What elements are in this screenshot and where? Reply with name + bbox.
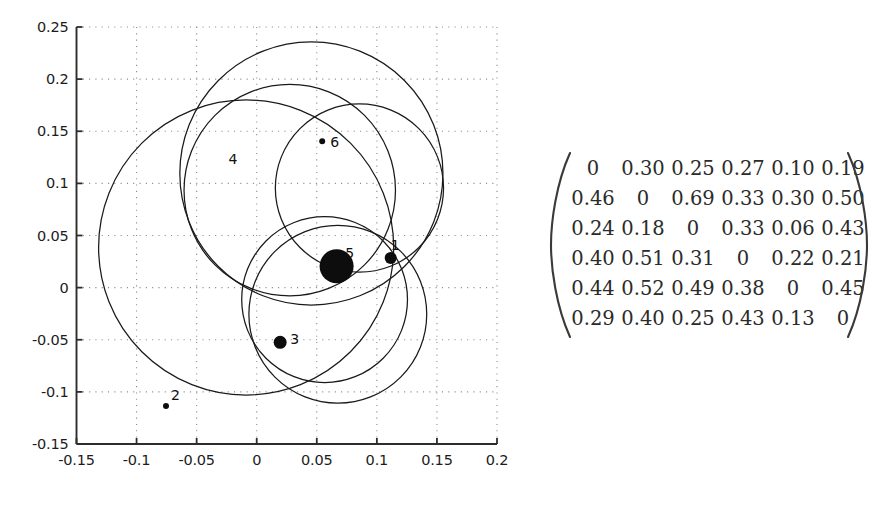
matrix-right-paren-icon (844, 150, 870, 340)
matrix-cell: 0.24 (568, 214, 618, 244)
circle-3 (180, 42, 443, 305)
matrix-cell: 0.06 (768, 214, 818, 244)
matrix-cell: 0 (768, 274, 818, 304)
matrix-cell: 0.33 (718, 214, 768, 244)
matrix-table: 00.300.250.270.100.190.4600.690.330.300.… (568, 154, 868, 334)
matrix-cell: 0.22 (768, 244, 818, 274)
matrix-cell: 0.33 (718, 184, 768, 214)
matrix-row: 0.290.400.250.430.130 (568, 304, 868, 334)
matrix-row: 0.4600.690.330.300.50 (568, 184, 868, 214)
matrix-cell: 0.49 (668, 274, 718, 304)
matrix-row: 00.300.250.270.100.19 (568, 154, 868, 184)
data-point-marker (319, 138, 325, 144)
y-axis-tick-label: 0 (3, 280, 69, 296)
matrix-cell: 0.40 (568, 244, 618, 274)
matrix-cell: 0.29 (568, 304, 618, 334)
matrix-row: 0.440.520.490.3800.45 (568, 274, 868, 304)
distance-matrix: 00.300.250.270.100.190.4600.690.330.300.… (548, 150, 868, 340)
matrix-cell: 0 (568, 154, 618, 184)
plot-data-points (163, 138, 397, 409)
y-axis-tick-label: -0.1 (3, 384, 69, 400)
matrix-cell: 0.69 (668, 184, 718, 214)
x-axis-tick-label: 0.2 (486, 452, 508, 468)
matrix-cell: 0.31 (668, 244, 718, 274)
data-point-label-6: 6 (330, 134, 339, 150)
matrix-cell: 0.52 (618, 274, 668, 304)
figure-panel: 0.250.20.150.10.050-0.05-0.1-0.15 -0.15-… (0, 0, 892, 508)
matrix-cell: 0.44 (568, 274, 618, 304)
y-axis-tick-label: -0.15 (3, 436, 69, 452)
data-point-label-1: 1 (391, 237, 400, 253)
matrix-cell: 0.38 (718, 274, 768, 304)
x-axis-tick-label: 0.05 (301, 452, 333, 468)
matrix-cell: 0.25 (668, 304, 718, 334)
matrix-cell: 0.40 (618, 304, 668, 334)
y-axis-tick-label: 0.1 (3, 175, 69, 191)
y-axis-tick-label: 0.25 (3, 19, 69, 35)
matrix-cell: 0 (618, 184, 668, 214)
y-axis-tick-label: 0.2 (3, 71, 69, 87)
matrix-cell: 0.43 (718, 304, 768, 334)
matrix-cell: 0.25 (668, 154, 718, 184)
data-point-label-2: 2 (171, 387, 180, 403)
matrix-cell: 0.30 (768, 184, 818, 214)
x-axis-tick-label: 0.1 (366, 452, 388, 468)
matrix-cell: 0.13 (768, 304, 818, 334)
data-point-label-5: 5 (345, 245, 354, 261)
x-axis-tick-label: -0.05 (178, 452, 215, 468)
data-point-marker (163, 403, 169, 409)
y-axis-tick-label: -0.05 (3, 332, 69, 348)
matrix-cell: 0 (668, 214, 718, 244)
matrix-cell: 0 (718, 244, 768, 274)
matrix-cell: 0.10 (768, 154, 818, 184)
matrix-cell: 0.27 (718, 154, 768, 184)
x-axis-tick-label: 0 (252, 452, 261, 468)
data-point-label-3: 3 (290, 331, 299, 347)
y-axis-tick-label: 0.15 (3, 123, 69, 139)
matrix-cell: 0.30 (618, 154, 668, 184)
data-point-marker (385, 252, 397, 264)
plot-gridlines (77, 27, 498, 444)
circle-5 (275, 104, 443, 272)
matrix-cell: 0.18 (618, 214, 668, 244)
matrix-row: 0.240.1800.330.060.43 (568, 214, 868, 244)
matrix-row: 0.400.510.3100.220.21 (568, 244, 868, 274)
x-axis-tick-label: 0.15 (421, 452, 453, 468)
data-point-marker (274, 336, 287, 349)
y-axis-tick-label: 0.05 (3, 228, 69, 244)
x-axis-tick-label: -0.1 (123, 452, 151, 468)
plot-curves (99, 42, 444, 403)
data-point-label-4: 4 (229, 151, 238, 167)
matrix-cell: 0.46 (568, 184, 618, 214)
matrix-cell: 0.51 (618, 244, 668, 274)
x-axis-tick-label: -0.15 (58, 452, 95, 468)
